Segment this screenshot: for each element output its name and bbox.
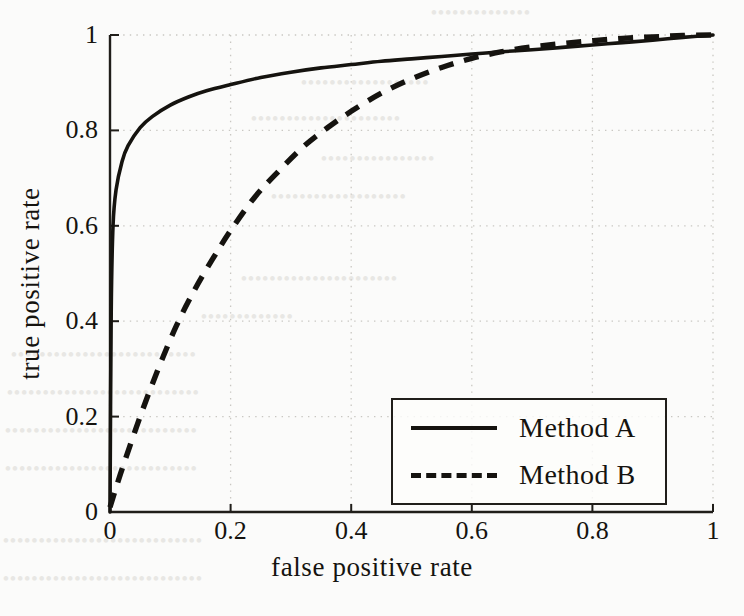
x-tick-label: 1 <box>707 516 720 546</box>
x-tick-label: 0.4 <box>335 516 368 546</box>
legend-item-method-a: Method A <box>393 403 665 453</box>
legend-item-method-b: Method B <box>393 450 665 500</box>
x-tick-label: 0.2 <box>214 516 247 546</box>
x-tick-label: 0.6 <box>456 516 489 546</box>
y-tick-label: 1 <box>30 20 98 50</box>
figure-page: •••••••••••••• •••••••••••••••••• ••••••… <box>0 0 744 616</box>
y-axis-label: true positive rate <box>15 134 46 434</box>
x-tick-label: 0.8 <box>576 516 609 546</box>
legend-swatch-dashed-line <box>411 473 497 478</box>
legend-label: Method A <box>519 412 636 444</box>
legend-label: Method B <box>519 459 636 491</box>
x-tick-label: 0 <box>104 516 117 546</box>
legend: Method A Method B <box>391 398 667 505</box>
x-axis-label: false positive rate <box>0 552 744 583</box>
y-tick-label: 0 <box>30 497 98 527</box>
legend-swatch-solid-line <box>411 426 497 430</box>
